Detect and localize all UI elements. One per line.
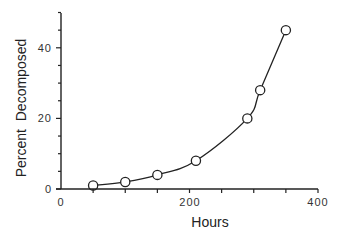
series-line — [93, 30, 286, 185]
y-tick-label-20: 20 — [38, 112, 52, 124]
data-point-marker — [256, 86, 265, 95]
x-tick-label-400: 400 — [307, 196, 328, 208]
data-point-marker — [281, 26, 290, 35]
data-point-marker — [153, 170, 162, 179]
y-tick-label-0: 0 — [45, 183, 52, 195]
data-point-marker — [191, 156, 200, 165]
y-ticks — [56, 13, 61, 190]
x-tick-label-0: 0 — [57, 196, 64, 208]
line-chart: 0 200 400 0 20 40 Hours Percent Decompos… — [0, 0, 341, 239]
data-point-marker — [121, 177, 130, 186]
x-axis-title: Hours — [191, 214, 228, 230]
x-tick-label-200: 200 — [179, 196, 200, 208]
y-axis-title: Percent Decomposed — [13, 39, 29, 178]
plot-area — [89, 26, 291, 191]
data-point-marker — [243, 114, 252, 123]
y-tick-label-40: 40 — [38, 42, 52, 54]
